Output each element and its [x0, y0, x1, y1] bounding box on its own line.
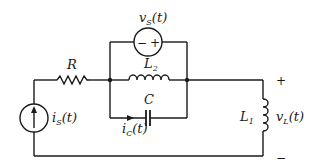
- voltage-source-label: vS(t): [139, 10, 167, 27]
- voltage-source-plus: +: [150, 36, 160, 50]
- resistor: [57, 76, 110, 84]
- load-voltage-minus: −: [276, 151, 286, 165]
- current-source-label: iS(t): [52, 110, 77, 127]
- capacitor-current-label: iC(t): [122, 121, 148, 138]
- circuit-diagram: iS(t) R − + vS(t) L2 C iC(t): [0, 0, 318, 168]
- capacitor-label: C: [144, 92, 154, 107]
- current-source: [20, 104, 48, 132]
- inductor-l2-label: L2: [143, 56, 158, 73]
- load-voltage-plus: +: [276, 74, 286, 88]
- inductor-l1-label: L1: [239, 109, 254, 126]
- inductor-l2: [110, 75, 187, 80]
- resistor-label: R: [66, 57, 77, 72]
- voltage-source-minus: −: [137, 36, 147, 50]
- load-voltage-label: vL(t): [276, 109, 304, 126]
